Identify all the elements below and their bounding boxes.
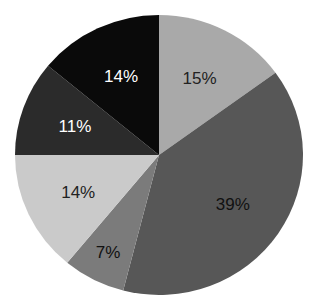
slice-label: 15% [183, 69, 217, 88]
pie-chart: 15%39%7%14%11%14% [0, 0, 313, 302]
slice-label: 7% [96, 243, 121, 262]
slice-label: 39% [216, 195, 250, 214]
slice-label: 14% [104, 67, 138, 86]
slice-label: 14% [61, 183, 95, 202]
slice-label: 11% [59, 117, 92, 136]
